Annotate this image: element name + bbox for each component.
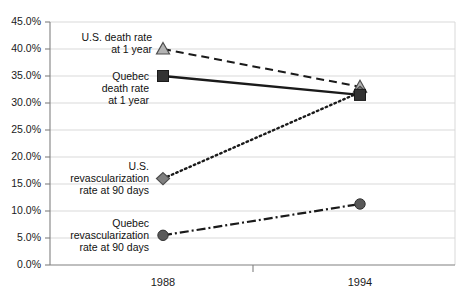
ytick-5: 5.0% (17, 231, 41, 243)
y-axis-tick-labels: 45.0% 40.0% 35.0% 30.0% 25.0% 20.0% 15.0… (11, 15, 41, 270)
ytick-0: 0.0% (17, 258, 41, 270)
ytick-45: 45.0% (11, 15, 41, 27)
us-revasc-label-line3: rate at 90 days (80, 184, 149, 196)
ytick-40: 40.0% (11, 42, 41, 54)
ytick-35: 35.0% (11, 69, 41, 81)
xtick-1988: 1988 (151, 276, 175, 288)
xtick-1994: 1994 (348, 276, 372, 288)
quebec-revasc-label-line2: revascularization (70, 229, 149, 241)
quebec-death-label-line3: at 1 year (108, 94, 149, 106)
x-axis (50, 265, 455, 272)
quebec-revasc-label-line3: rate at 90 days (80, 241, 149, 253)
chart-svg: 45.0% 40.0% 35.0% 30.0% 25.0% 20.0% 15.0… (0, 0, 472, 300)
quebec-revasc-label-line1: Quebec (112, 217, 149, 229)
ytick-20: 20.0% (11, 150, 41, 162)
marker-quebec-death-1994 (355, 89, 366, 100)
marker-quebec-revascularization-1994 (355, 199, 365, 209)
marker-quebec-revascularization-1988 (158, 230, 168, 240)
ytick-30: 30.0% (11, 96, 41, 108)
us-revasc-label-line2: revascularization (70, 172, 149, 184)
us-revasc-label-line1: U.S. (129, 160, 149, 172)
quebec-death-label-line1: Quebec (112, 70, 149, 82)
marker-quebec-death-1988 (158, 71, 169, 82)
quebec-death-label-line2: death rate (102, 82, 149, 94)
x-axis-tick-labels: 1988 1994 (151, 276, 372, 288)
us-death-label-line1: U.S. death rate (81, 31, 152, 43)
ytick-10: 10.0% (11, 204, 41, 216)
line-chart: 45.0% 40.0% 35.0% 30.0% 25.0% 20.0% 15.0… (0, 0, 472, 300)
us-death-label-line2: at 1 year (111, 43, 152, 55)
ytick-15: 15.0% (11, 177, 41, 189)
y-axis (45, 22, 50, 265)
ytick-25: 25.0% (11, 123, 41, 135)
